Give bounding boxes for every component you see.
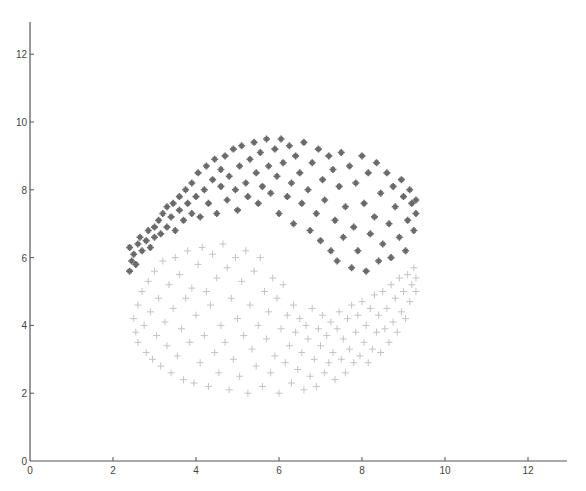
star-marker (236, 163, 243, 170)
plus-marker (168, 369, 175, 376)
star-marker (276, 210, 283, 217)
star-marker (265, 163, 272, 170)
plus-marker (195, 261, 202, 268)
star-marker (213, 210, 220, 217)
plus-marker (134, 302, 141, 309)
plus-marker (398, 308, 405, 315)
star-marker (290, 220, 297, 227)
plus-marker (408, 281, 415, 288)
plus-marker (197, 359, 204, 366)
plus-marker (141, 322, 148, 329)
y-tick-label: 0 (21, 456, 27, 467)
plus-marker (155, 295, 162, 302)
plus-marker (307, 373, 314, 380)
plus-marker (356, 352, 363, 359)
star-marker (400, 193, 407, 200)
star-marker (402, 247, 409, 254)
star-marker (346, 163, 353, 170)
star-marker (361, 200, 368, 207)
star-marker (159, 210, 166, 217)
star-marker (385, 220, 392, 227)
plus-marker (203, 288, 210, 295)
plus-marker (145, 278, 152, 285)
plus-marker (238, 278, 245, 285)
y-tick-label: 4 (21, 320, 27, 331)
plus-marker (313, 383, 320, 390)
plus-marker (298, 349, 305, 356)
plus-marker (147, 308, 154, 315)
star-marker (392, 203, 399, 210)
star-marker (321, 196, 328, 203)
star-marker (325, 152, 332, 159)
star-marker (278, 135, 285, 142)
plus-marker (265, 308, 272, 315)
star-marker (412, 210, 419, 217)
plus-marker (280, 281, 287, 288)
plus-marker (369, 346, 376, 353)
plus-marker (172, 254, 179, 261)
plus-marker (302, 322, 309, 329)
star-marker (238, 142, 245, 149)
star-marker (359, 152, 366, 159)
star-marker (309, 159, 316, 166)
plus-marker (394, 329, 401, 336)
star-marker (188, 210, 195, 217)
plus-marker (132, 329, 139, 336)
star-marker (296, 169, 303, 176)
star-marker (251, 139, 258, 146)
star-marker (410, 227, 417, 234)
star-marker (139, 247, 146, 254)
star-marker (292, 152, 299, 159)
star-marker (271, 146, 278, 153)
plus-marker (267, 369, 274, 376)
x-tick-label: 0 (27, 465, 33, 476)
plus-marker (174, 352, 181, 359)
star-marker (255, 200, 262, 207)
plus-marker (309, 305, 316, 312)
plus-marker (232, 254, 239, 261)
plus-marker (149, 356, 156, 363)
star-marker (224, 196, 231, 203)
star-marker (134, 241, 141, 248)
plus-marker (365, 359, 372, 366)
plus-marker (375, 312, 382, 319)
scatter-plot: 024681012 024681012 (0, 0, 586, 491)
plus-marker (151, 268, 158, 275)
star-marker (234, 207, 241, 214)
star-marker (253, 169, 260, 176)
plus-marker (176, 271, 183, 278)
plus-marker (199, 244, 206, 251)
plus-marker (246, 302, 253, 309)
plus-marker (159, 257, 166, 264)
star-marker (246, 156, 253, 163)
plus-marker (255, 322, 262, 329)
plus-marker (334, 325, 341, 332)
star-marker (365, 169, 372, 176)
plus-marker (344, 315, 351, 322)
star-marker (205, 200, 212, 207)
plus-marker (163, 342, 170, 349)
plus-marker (282, 359, 289, 366)
plus-marker (143, 349, 150, 356)
plus-marker (215, 369, 222, 376)
data-points (126, 135, 419, 396)
plus-marker (257, 254, 264, 261)
star-marker (329, 166, 336, 173)
plus-marker (240, 332, 247, 339)
star-marker (338, 149, 345, 156)
plus-marker (161, 319, 168, 326)
star-marker (211, 156, 218, 163)
plus-marker (261, 288, 268, 295)
star-marker (226, 173, 233, 180)
plus-marker (342, 369, 349, 376)
star-marker (259, 183, 266, 190)
plus-marker (396, 274, 403, 281)
plus-marker (228, 295, 235, 302)
series-1 (126, 135, 419, 274)
star-marker (143, 237, 150, 244)
plus-marker (352, 329, 359, 336)
x-tick-label: 10 (439, 465, 451, 476)
plus-marker (180, 376, 187, 383)
plus-marker (205, 383, 212, 390)
plus-marker (134, 339, 141, 346)
